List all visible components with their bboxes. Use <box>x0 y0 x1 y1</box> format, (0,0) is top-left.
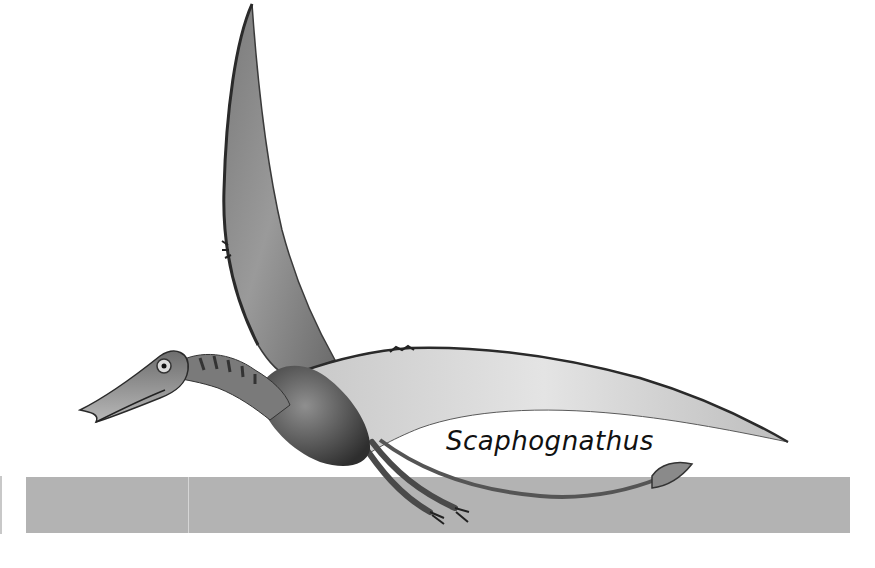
tail-vane <box>652 463 692 489</box>
pterosaur-illustration <box>0 0 875 568</box>
upper-wing <box>224 4 335 378</box>
species-label: Scaphognathus <box>446 426 654 456</box>
hind-legs <box>360 440 455 512</box>
head <box>80 351 188 422</box>
